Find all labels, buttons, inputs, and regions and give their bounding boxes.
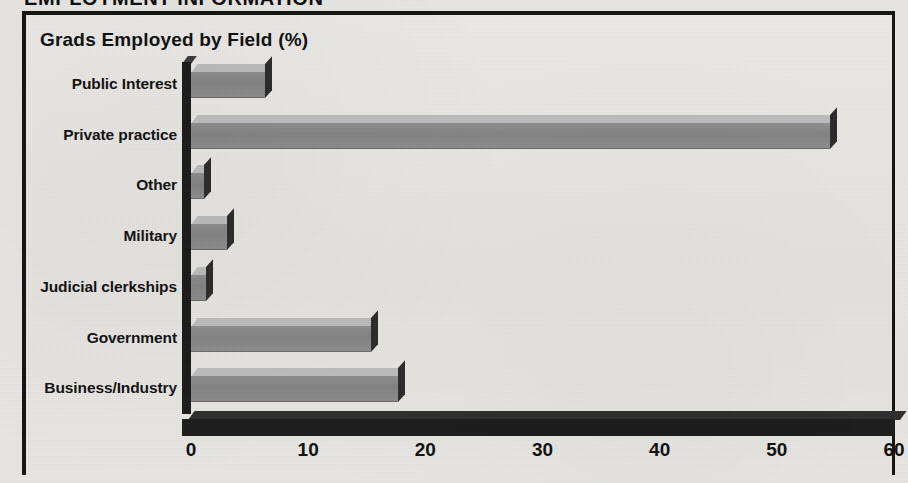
x-axis-tick-label: 10 [298,439,319,461]
bar-front-face [191,275,206,301]
y-axis-tick-label: Other [27,176,177,194]
bar-chart-plot: Public InterestPrivate practiceOtherMili… [26,15,899,479]
x-axis-tick-label: 50 [766,439,787,461]
bar-side-face [265,56,272,98]
y-axis-labels: Public InterestPrivate practiceOtherMili… [26,15,177,479]
y-axis-tick-label: Judicial clerkships [27,278,177,296]
bar-side-face [371,310,378,352]
bar-side-face [206,259,213,301]
bar-side-face [204,158,211,200]
bar-front-face [191,72,265,98]
y-axis-tick-label: Public Interest [27,75,177,93]
bar-front-face [191,326,371,352]
chart-panel: Grads Employed by Field (%) Public Inter… [22,11,895,475]
y-axis-tick-label: Business/Industry [27,379,177,397]
bar-side-face [398,360,405,402]
x-axis-tick-label: 30 [532,439,553,461]
x-axis-tick-label: 40 [649,439,670,461]
y-axis-tick-label: Private practice [27,126,177,144]
x-axis-tick-label: 20 [415,439,436,461]
bar-front-face [191,376,398,402]
y-axis-tick-label: Military [27,227,177,245]
bar-side-face [227,208,234,250]
x-axis-tick-label: 0 [186,439,197,461]
y-axis-wall [182,62,191,414]
bar-front-face [191,123,830,149]
y-axis-tick-label: Government [27,329,177,347]
x-axis-tick-label: 60 [883,439,904,461]
section-header: EMPLOYMENT INFORMATION [24,0,494,7]
bar-front-face [191,173,204,199]
x-axis-labels: 0102030405060 [26,439,899,473]
x-axis-baseline [182,419,894,436]
bar-side-face [830,107,837,149]
bar-front-face [191,224,227,250]
